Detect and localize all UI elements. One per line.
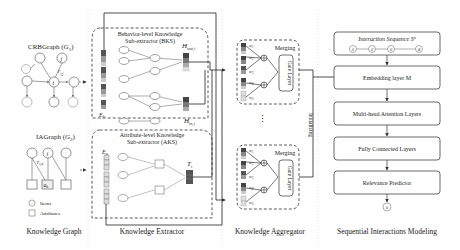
fully-connected-box: Fully Connected Layers xyxy=(334,137,440,160)
svg-text:w3: w3 xyxy=(249,69,254,75)
svg-text:Attribute-level Knowledge: Attribute-level Knowledge xyxy=(120,132,185,138)
svg-text:w5: w5 xyxy=(249,95,254,101)
section-label-knowledge-aggregator: Knowledge Aggregator xyxy=(235,227,306,236)
relevance-predictor-box: Relevance Predictor xyxy=(334,171,440,194)
svg-text:Hout,i: Hout,i xyxy=(181,42,196,52)
t-i-vector: Ti xyxy=(186,160,193,184)
diagram-canvas: CRBGraph (G1) j i ri,j xyxy=(0,0,460,250)
svg-text:Multi-head Attention Layers: Multi-head Attention Layers xyxy=(353,111,422,117)
svg-text:j: j xyxy=(60,56,63,62)
svg-text:ri,j: ri,j xyxy=(58,68,64,77)
svg-text:Embedding layer M: Embedding layer M xyxy=(363,75,412,81)
svg-text:Hin,i: Hin,i xyxy=(183,117,196,127)
crb-graph: CRBGraph (G1) j i ri,j xyxy=(22,43,87,107)
legend-attributes-icon xyxy=(29,210,35,216)
svg-text:w1: w1 xyxy=(249,148,254,154)
legend-items-icon xyxy=(29,200,35,206)
attention-layers-box: Multi-head Attention Layers xyxy=(334,102,440,125)
eb-embedding: Eb xyxy=(98,50,106,119)
svg-text:i1: i1 xyxy=(352,48,355,52)
svg-text:Relevance Predictor: Relevance Predictor xyxy=(363,180,411,186)
svg-text:Attributes: Attributes xyxy=(40,211,60,216)
section-label-knowledge-extractor: Knowledge Extractor xyxy=(120,227,185,236)
svg-text:i2: i2 xyxy=(371,48,374,52)
merging-box-bottom: Merging w1 w2 w3 w4 w5 Gate Layer xyxy=(237,145,299,209)
svg-text:ri,a: ri,a xyxy=(37,159,43,167)
svg-text:i5: i5 xyxy=(386,206,389,210)
svg-text:Sub-extractor (AKS): Sub-extractor (AKS) xyxy=(127,139,177,146)
svg-text:Merging: Merging xyxy=(275,45,296,51)
svg-text:w4: w4 xyxy=(249,185,254,191)
ea-embedding xyxy=(104,155,109,204)
svg-text:CRBGraph (G1): CRBGraph (G1) xyxy=(28,43,74,52)
svg-text:Ti: Ti xyxy=(187,160,193,169)
initializing-label: Initializing xyxy=(308,113,314,137)
svg-text:w2: w2 xyxy=(249,55,254,61)
svg-text:Gate Layer: Gate Layer xyxy=(287,166,293,191)
svg-text:Sub-extractor (BKS): Sub-extractor (BKS) xyxy=(125,38,175,45)
svg-text:w2: w2 xyxy=(249,160,254,166)
ia-graph: IAGraph (G2) i ak ri,a Items Attributes xyxy=(27,133,86,216)
interaction-sequence-box: Interaction Sequence Su i1 i2 i3 i4 xyxy=(334,32,440,55)
svg-text:w1: w1 xyxy=(249,43,254,49)
embedding-layer-box: Embedding layer M xyxy=(334,66,440,89)
section-label-knowledge-graph: Knowledge Graph xyxy=(26,227,81,236)
svg-text:i4: i4 xyxy=(418,48,421,52)
svg-text:Fully Connected Layers: Fully Connected Layers xyxy=(358,146,416,152)
svg-text:Items: Items xyxy=(40,201,51,206)
svg-text:i3: i3 xyxy=(390,48,393,52)
svg-text:Gate Layer: Gate Layer xyxy=(287,61,293,86)
svg-text:IAGraph (G2): IAGraph (G2) xyxy=(36,133,76,142)
h-in-vector: Hin,i xyxy=(183,97,196,127)
svg-text:w5: w5 xyxy=(249,200,254,206)
stacked-vector-top xyxy=(241,43,246,101)
merging-box-top: Merging w1 w2 w3 w4 w5 Gate Layer xyxy=(237,40,299,104)
svg-text:Behavior-level Knowledge: Behavior-level Knowledge xyxy=(118,31,183,37)
section-label-sequential: Sequential Interactions Modeling xyxy=(337,227,437,236)
svg-text:w3: w3 xyxy=(249,174,254,180)
h-out-vector: Hout,i xyxy=(181,42,196,71)
svg-text:w4: w4 xyxy=(249,80,254,86)
svg-text:Interaction Sequence Su: Interaction Sequence Su xyxy=(357,35,415,42)
svg-text:Merging: Merging xyxy=(275,150,296,156)
ellipsis: ⋮ xyxy=(258,114,267,124)
